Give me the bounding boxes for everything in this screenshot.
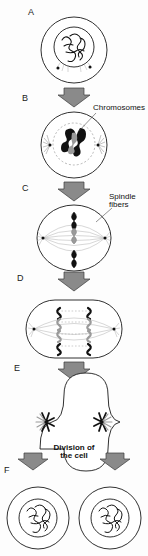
arrow-e-to-f-left xyxy=(18,453,48,470)
stage-label-c: C xyxy=(22,184,29,193)
stage-label-e: E xyxy=(14,364,20,373)
stage-a-cell xyxy=(41,17,107,83)
stage-label-f: F xyxy=(4,466,10,475)
spindle-fibers-label: Spindle fibers xyxy=(109,193,136,210)
arrow-b-to-c xyxy=(58,182,90,201)
stage-label-b: B xyxy=(22,94,28,103)
stage-label-a: A xyxy=(28,8,34,17)
division-of-the-cell-label: Division of the cell xyxy=(45,444,103,461)
stage-d-cell xyxy=(26,300,122,358)
stage-f-daughter-cell-right xyxy=(79,487,141,549)
stage-label-d: D xyxy=(17,274,24,283)
chromosomes-label: Chromosomes xyxy=(93,104,145,112)
arrow-a-to-b xyxy=(58,88,90,107)
arrow-c-to-d xyxy=(58,272,90,291)
stage-c-cell xyxy=(37,205,112,271)
stage-b-cell xyxy=(41,112,107,178)
stage-f-daughter-cell-left xyxy=(7,487,69,549)
mitosis-diagram: A B C D E F Chromosomes Spindle fibers D… xyxy=(0,0,148,556)
